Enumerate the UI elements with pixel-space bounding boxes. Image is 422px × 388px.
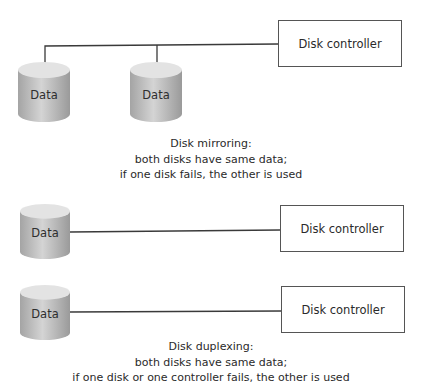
caption-title: Disk mirroring: [0,136,422,152]
disk-label: Data [130,88,182,102]
caption-line-1: both disks have same data; [0,355,422,371]
mirroring-disk-2: Data [130,62,182,122]
mirroring-disk-controller: Disk controller [278,20,402,67]
duplexing-disk-2: Data [20,285,70,340]
duplexing-caption: Disk duplexing: both disks have same dat… [0,339,422,386]
caption-title: Disk duplexing: [0,339,422,355]
duplex-link-1 [70,230,280,232]
caption-line-2: if one disk fails, the other is used [0,167,422,183]
duplexing-disk-controller-2: Disk controller [281,286,405,333]
disk-label: Data [18,88,70,102]
mirroring-caption: Disk mirroring: both disks have same dat… [0,136,422,183]
duplex-link-2 [70,311,281,312]
disk-label: Data [20,226,70,240]
disk-label: Data [20,307,70,321]
duplexing-disk-controller-1: Disk controller [280,205,404,252]
caption-line-1: both disks have same data; [0,152,422,168]
caption-line-2: if one disk or one controller fails, the… [0,370,422,386]
mirroring-disk-1: Data [18,62,70,122]
duplexing-disk-1: Data [20,204,70,259]
